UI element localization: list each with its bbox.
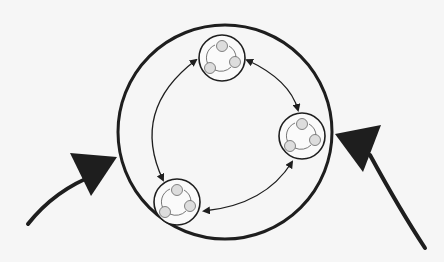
node-icon xyxy=(310,135,321,146)
node-icon xyxy=(217,41,228,52)
subsystem-right xyxy=(279,113,325,159)
node-icon xyxy=(297,119,308,130)
node-icon xyxy=(172,185,183,196)
system-diagram xyxy=(0,0,444,262)
node-icon xyxy=(230,57,241,68)
node-icon xyxy=(185,201,196,212)
subsystem-bottom-left xyxy=(154,179,200,225)
subsystem-top xyxy=(199,35,245,81)
node-icon xyxy=(160,207,171,218)
node-icon xyxy=(205,63,216,74)
node-icon xyxy=(285,141,296,152)
